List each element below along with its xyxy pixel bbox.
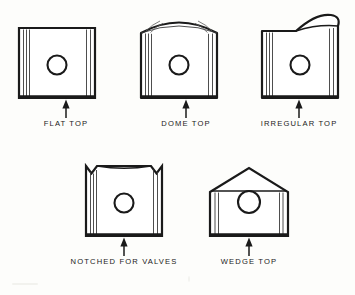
- piston-label-notched-for-valves: NOTCHED FOR VALVES: [71, 258, 178, 266]
- piston-body-outline-dome-top: [141, 23, 217, 99]
- piston-body-outline-wedge-top: [210, 168, 288, 236]
- scan-artifact: [188, 276, 190, 282]
- callout-arrow-notched: [120, 238, 127, 257]
- callout-arrow-wedge-top: [245, 238, 252, 257]
- piston-wedge-top: [210, 168, 288, 256]
- callout-arrow-dome-top: [182, 100, 189, 119]
- scan-artifact: [12, 283, 38, 285]
- callout-arrow-irregular-top: [295, 100, 302, 119]
- piston-shapes-figure: FLAT TOP DOME TOP IRREGULAR TOP NOTCHED …: [0, 0, 355, 295]
- piston-diagram-canvas: [0, 0, 355, 295]
- piston-label-irregular-top: IRREGULAR TOP: [261, 120, 338, 128]
- piston-label-flat-top: FLAT TOP: [44, 120, 89, 128]
- callout-arrow-flat-top: [62, 100, 69, 119]
- piston-body-outline-notched: [86, 166, 162, 236]
- piston-notched-for-valves: [86, 166, 162, 256]
- piston-label-dome-top: DOME TOP: [161, 120, 210, 128]
- piston-flat-top: [19, 28, 95, 118]
- piston-label-wedge-top: WEDGE TOP: [221, 258, 277, 266]
- piston-dome-top: [141, 21, 217, 118]
- piston-body-outline-flat-top: [19, 28, 95, 98]
- piston-irregular-top: [262, 15, 339, 118]
